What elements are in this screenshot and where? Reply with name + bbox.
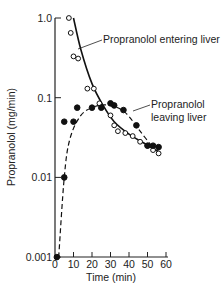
- leaving-data-point: [61, 175, 67, 181]
- y-tick-label: 0.001: [26, 251, 52, 263]
- leaving-curve: [59, 105, 155, 257]
- annot-leaving-label-line1: Propranolol: [151, 98, 205, 110]
- y-tick-label: 0.1: [37, 92, 52, 104]
- axes: [55, 18, 168, 257]
- y-axis-title: Propranolol (mg/min): [5, 88, 17, 186]
- entering-data-point: [85, 86, 90, 91]
- leaving-data-point: [89, 105, 95, 111]
- entering-data-point: [123, 131, 128, 136]
- entering-data-point: [66, 16, 71, 21]
- x-tick-label: 30: [105, 258, 117, 270]
- leaving-data-point: [150, 143, 156, 149]
- annot-entering-leader: [78, 40, 102, 49]
- leaving-data-point: [111, 103, 117, 109]
- leaving-data-point: [98, 105, 104, 111]
- entering-data-point: [156, 151, 161, 156]
- propranolol-chart: 0.0010.010.11.0 0102030405060 Time (min)…: [0, 0, 223, 290]
- x-tick-label: 10: [68, 258, 80, 270]
- annot-leaving-label-line2: leaving liver: [151, 111, 207, 123]
- x-ticks: 0102030405060: [52, 252, 172, 270]
- leaving-data-point: [71, 119, 77, 125]
- x-tick-label: 60: [160, 258, 172, 270]
- y-tick-label: 0.01: [32, 171, 53, 183]
- leaving-data-point: [121, 107, 127, 113]
- leaving-data-point: [54, 254, 60, 260]
- leaving-data-point: [156, 144, 162, 150]
- entering-data-point: [76, 56, 81, 61]
- annot-entering-label: Propranolol entering liver: [103, 33, 220, 45]
- entering-data-point: [130, 134, 135, 139]
- entering-data-point: [138, 139, 143, 144]
- leaving-data-point: [134, 123, 140, 129]
- entering-data-point: [108, 113, 113, 118]
- leaving-data-point: [61, 119, 67, 125]
- entering-data-point: [91, 86, 96, 91]
- entering-data-point: [68, 31, 73, 36]
- entering-data-point: [71, 54, 76, 59]
- leaving-data-point: [74, 105, 80, 111]
- x-tick-label: 50: [142, 258, 154, 270]
- entering-data-point: [112, 123, 117, 128]
- annot-leaving-leader: [133, 105, 150, 111]
- entering-data-point: [116, 129, 121, 134]
- x-axis-title: Time (min): [86, 271, 136, 283]
- y-tick-label: 1.0: [37, 12, 52, 24]
- leaving-data-point: [145, 143, 151, 149]
- x-tick-label: 20: [86, 258, 98, 270]
- y-ticks: 0.0010.010.11.0: [26, 12, 61, 263]
- x-tick-label: 40: [123, 258, 135, 270]
